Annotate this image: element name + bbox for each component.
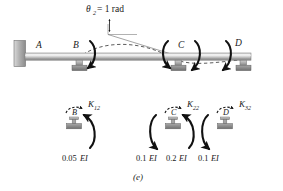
fbd-node-label-b: B bbox=[72, 108, 77, 117]
rotation-annotation: θ 2 = 1 rad bbox=[86, 4, 176, 56]
fbd-d-stem bbox=[223, 120, 227, 124]
support-b bbox=[72, 60, 87, 70]
theta-symbol: θ bbox=[86, 4, 91, 14]
node-label-c: C bbox=[178, 40, 185, 50]
beam-stiffness-diagram: θ 2 = 1 rad A B C D bbox=[0, 0, 283, 191]
fbd-c-base bbox=[166, 124, 181, 129]
fbd-c-moment-arrow-left bbox=[150, 115, 157, 149]
stiffness-subscript-k32: 32 bbox=[244, 105, 251, 111]
fbd-c-moment-value-right: 0.2 bbox=[166, 154, 176, 163]
fbd-d-moment-arrow bbox=[202, 115, 209, 149]
fbd-b-moment-value: 0.05 bbox=[62, 154, 77, 163]
fbd-c-moment-arrow-right bbox=[183, 115, 194, 148]
fbd-b-moment-arrow bbox=[84, 115, 95, 148]
fbd-node-label-d: D bbox=[222, 108, 229, 117]
fbd-b-stem bbox=[72, 120, 76, 124]
fbd-d-base bbox=[218, 124, 233, 129]
fbd-d-moment-value: 0.1 bbox=[198, 154, 208, 163]
fbd-node-label-c: C bbox=[171, 108, 177, 117]
fixed-support-wall bbox=[14, 41, 26, 67]
fbd-b-base bbox=[67, 124, 82, 129]
fbd-c-moment-value-left: 0.1 bbox=[136, 154, 146, 163]
stiffness-subscript-k22: 22 bbox=[193, 105, 199, 111]
fbd-c-cap bbox=[169, 117, 178, 120]
figure-container: θ 2 = 1 rad A B C D bbox=[0, 0, 283, 191]
free-body-c: C K 22 0.1 EI 0.2 EI bbox=[136, 99, 199, 163]
theta-equals-value: = 1 rad bbox=[97, 4, 124, 14]
node-label-b: B bbox=[73, 40, 79, 50]
fbd-d-cap bbox=[221, 117, 230, 120]
theta-subscript: 2 bbox=[93, 9, 96, 16]
support-d bbox=[236, 60, 251, 70]
fbd-c-moment-unit-right: EI bbox=[178, 154, 188, 163]
stiffness-subscript-k12: 12 bbox=[94, 105, 100, 111]
fbd-d-moment-unit: EI bbox=[210, 154, 220, 163]
free-body-d: D K 32 0.1 EI bbox=[198, 99, 251, 163]
fbd-b-moment-unit: EI bbox=[79, 154, 89, 163]
fbd-c-stem bbox=[171, 120, 175, 124]
node-label-a: A bbox=[35, 40, 42, 50]
support-c bbox=[171, 60, 186, 70]
fbd-c-moment-unit-left: EI bbox=[148, 154, 158, 163]
figure-caption: (e) bbox=[133, 172, 143, 182]
free-body-b: B K 12 0.05 EI bbox=[62, 99, 100, 163]
node-label-d: D bbox=[234, 38, 242, 48]
beam-member bbox=[25, 53, 251, 60]
fbd-b-cap bbox=[70, 117, 79, 120]
